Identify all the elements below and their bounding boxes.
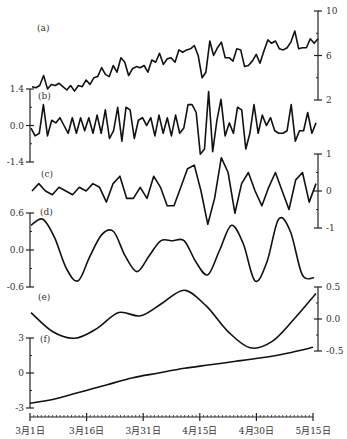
y-tick-label: 0 [326, 186, 332, 196]
chart-panels: 1062(a)1.40.0-1.4(b)10-1(c)0.60.0-0.6(d)… [7, 6, 344, 413]
series-line [31, 92, 316, 155]
y-tick-label: -0.6 [7, 282, 25, 292]
series-line [31, 290, 316, 348]
x-tick-label: 3月1日 [15, 426, 44, 436]
y-tick-label: 10 [326, 6, 338, 16]
x-tick-label: 4月30日 [239, 426, 274, 436]
panel-d: 0.60.0-0.6(d) [7, 207, 314, 292]
y-tick-label: 0.0 [10, 121, 25, 131]
y-tick-label: -1.4 [7, 157, 25, 167]
y-tick-label: 0.0 [326, 314, 341, 324]
panel-label: (b) [38, 91, 51, 101]
multi-panel-line-chart: 1062(a)1.40.0-1.4(b)10-1(c)0.60.0-0.6(d)… [0, 0, 347, 439]
panel-label: (c) [41, 169, 53, 179]
panel-c: 10-1(c) [32, 149, 335, 233]
y-tick-label: 0 [18, 368, 24, 378]
y-tick-label: -0.5 [326, 346, 344, 356]
x-axis: 3月1日3月16日3月31日4月15日4月30日5月15日 [15, 413, 330, 436]
panel-a: 1062(a) [32, 6, 338, 105]
y-tick-label: 1.4 [10, 84, 25, 94]
panel-f: 30-3(f) [15, 333, 313, 413]
y-tick-label: 0.0 [10, 245, 25, 255]
y-tick-label: 3 [18, 333, 24, 343]
series-line [30, 347, 313, 403]
y-tick-label: 6 [326, 51, 332, 61]
series-line [31, 218, 314, 282]
y-tick-label: 1 [326, 149, 332, 159]
series-line [32, 31, 318, 91]
x-tick-label: 5月15日 [295, 426, 330, 436]
panel-label: (f) [40, 334, 50, 344]
y-tick-label: 0.6 [10, 208, 25, 218]
x-tick-label: 3月16日 [69, 426, 104, 436]
panel-label: (a) [37, 23, 49, 33]
x-tick-label: 4月15日 [182, 426, 217, 436]
y-tick-label: -1 [326, 223, 335, 233]
x-tick-label: 3月31日 [126, 426, 161, 436]
series-line [32, 158, 316, 225]
panel-label: (d) [40, 207, 53, 217]
panel-e: 0.50.0-0.5(e) [31, 282, 344, 356]
panel-label: (e) [38, 292, 50, 302]
y-tick-label: -3 [15, 403, 24, 413]
panel-b: 1.40.0-1.4(b) [7, 84, 316, 167]
y-tick-label: 0.5 [326, 282, 341, 292]
y-tick-label: 2 [326, 95, 332, 105]
